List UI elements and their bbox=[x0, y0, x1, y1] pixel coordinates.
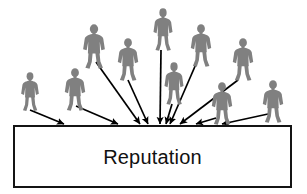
arrow-from-left-mid bbox=[128, 80, 148, 124]
person-left-lower-icon bbox=[60, 68, 90, 112]
person-left-upper-icon bbox=[78, 24, 110, 70]
reputation-box[interactable]: Reputation bbox=[13, 125, 292, 188]
reputation-label: Reputation bbox=[103, 147, 202, 167]
person-center-lower-icon bbox=[160, 62, 188, 106]
person-far-right-icon bbox=[258, 80, 288, 124]
person-far-left-icon bbox=[17, 72, 43, 112]
person-right-upper-icon bbox=[186, 24, 216, 68]
person-top-center-icon bbox=[149, 8, 177, 52]
person-left-mid-icon bbox=[113, 38, 143, 82]
arrow-from-far-left bbox=[30, 110, 64, 124]
person-right-mid-icon bbox=[228, 38, 258, 82]
person-right-lower-icon bbox=[207, 82, 237, 126]
reputation-diagram: Reputation bbox=[0, 0, 307, 194]
